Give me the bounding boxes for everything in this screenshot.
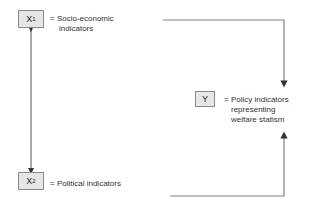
node-y: Y <box>195 91 215 107</box>
node-x1: X1 <box>18 10 44 28</box>
x1-to-y-arrow <box>163 20 284 84</box>
x1-subscript: 1 <box>32 16 35 22</box>
x2-to-y-arrow <box>170 135 284 196</box>
node-x2: X2 <box>18 172 44 190</box>
y-symbol: Y <box>202 94 208 104</box>
x2-description: = Political indicators <box>50 179 121 189</box>
x1-description: = Socio-economic indicators <box>50 14 114 34</box>
y-description: = Policy indicators representing welfare… <box>224 95 289 125</box>
x2-subscript: 2 <box>32 178 35 184</box>
